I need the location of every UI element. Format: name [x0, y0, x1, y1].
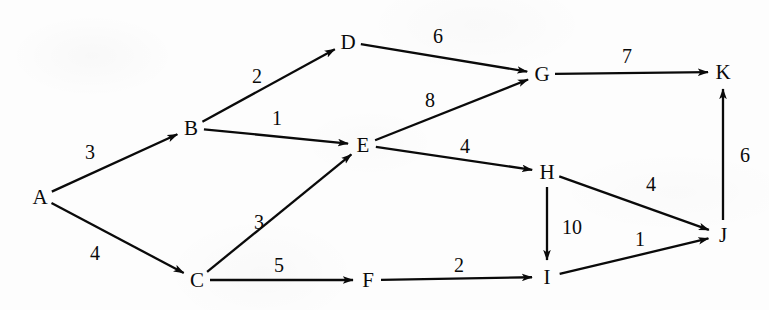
edge-weight-a-c: 4 [90, 242, 100, 264]
edge-weights-layer: 3421356842710416 [85, 25, 750, 276]
edge-weight-b-d: 2 [252, 65, 262, 87]
edge-weight-a-b: 3 [85, 141, 95, 163]
graph-node-e: E [357, 133, 370, 157]
graph-node-g: G [534, 62, 549, 86]
edge-weight-d-g: 6 [433, 25, 443, 47]
edge-e-to-h [376, 147, 532, 170]
edge-weight-i-j: 1 [635, 228, 645, 250]
edge-weight-c-f: 5 [274, 254, 284, 276]
graph-node-h: H [539, 160, 554, 184]
edge-b-to-e [204, 129, 348, 143]
edge-weight-j-k: 6 [740, 144, 750, 166]
edge-weight-e-h: 4 [460, 135, 470, 157]
diagram-canvas: 3421356842710416 ABCDEFGHIJK [0, 0, 769, 310]
graph-node-k: K [715, 60, 730, 84]
graph-node-f: F [362, 268, 374, 292]
edge-weight-c-e: 3 [254, 211, 264, 233]
edge-weight-e-g: 8 [425, 89, 435, 111]
edge-a-to-b [52, 134, 178, 191]
edges-layer [51, 44, 723, 280]
edge-weight-h-j: 4 [646, 173, 656, 195]
edge-g-to-k [555, 72, 708, 74]
edge-e-to-g [375, 80, 528, 141]
edge-weight-f-i: 2 [454, 254, 464, 276]
edge-weight-g-k: 7 [622, 45, 632, 67]
edge-weight-h-i: 10 [562, 216, 582, 238]
edge-a-to-c [51, 203, 183, 273]
graph-node-c: C [190, 268, 204, 292]
nodes-layer: ABCDEFGHIJK [32, 30, 730, 292]
graph-node-j: J [719, 223, 727, 247]
edge-weight-b-e: 1 [272, 107, 282, 129]
edge-f-to-i [381, 277, 532, 280]
graph-node-a: A [32, 185, 48, 209]
graph-node-i: I [544, 265, 551, 289]
edge-b-to-d [202, 49, 334, 122]
edge-d-to-g [361, 44, 527, 71]
graph-node-b: B [184, 116, 198, 140]
graph-node-d: D [340, 30, 355, 54]
weighted-directed-graph: 3421356842710416 ABCDEFGHIJK [0, 0, 769, 310]
